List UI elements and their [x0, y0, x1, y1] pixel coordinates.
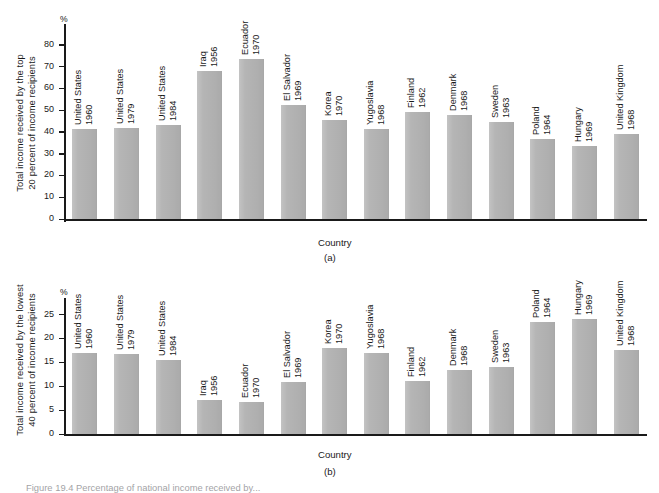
bar — [405, 381, 430, 434]
bar-country-name: United States — [115, 68, 125, 123]
bar — [530, 322, 555, 434]
y-axis-tick-label: 0 — [24, 428, 54, 438]
y-axis-tick — [59, 434, 64, 435]
bar-category-label: Yugoslavia1968 — [365, 304, 388, 348]
bar-country-name: Poland — [531, 290, 541, 319]
bar — [364, 129, 389, 219]
panel-b-x-axis-line — [64, 434, 647, 436]
bar — [114, 128, 139, 219]
bar-year: 1964 — [543, 106, 554, 135]
bar-country-name: Iraq — [198, 51, 208, 67]
bar — [447, 115, 472, 219]
bar — [197, 400, 222, 434]
bar-year: 1968 — [459, 74, 470, 111]
bar-category-label: Sweden1963 — [490, 85, 513, 118]
y-axis-tick — [59, 153, 64, 154]
bar-country-name: Ecuador — [240, 364, 250, 398]
y-axis-tick-label: 0 — [24, 213, 54, 223]
bar-country-name: United States — [115, 295, 125, 350]
bar-year: 1968 — [626, 65, 637, 130]
y-axis-tick — [59, 175, 64, 176]
y-axis-tick-label: 15 — [24, 356, 54, 366]
bar-category-label: Hungary1969 — [573, 281, 596, 316]
bar — [322, 348, 347, 434]
bar-country-name: Yugoslavia — [365, 80, 375, 124]
bar — [614, 350, 639, 434]
bar-category-label: Hungary1969 — [573, 107, 596, 142]
bar — [489, 367, 514, 434]
bar-year: 1984 — [168, 66, 179, 121]
panel-b-y-axis-line — [64, 298, 66, 436]
y-axis-tick-label: 20 — [24, 169, 54, 179]
bar-category-label: El Salvador1969 — [282, 331, 305, 378]
y-axis-tick — [59, 386, 64, 387]
bar — [72, 353, 97, 434]
bar-category-label: Ecuador1970 — [240, 21, 263, 55]
chart-panel-a: Total income received by the top 20 perc… — [0, 4, 659, 256]
bar-country-name: Yugoslavia — [365, 304, 375, 348]
bar-country-name: Korea — [323, 319, 333, 344]
bar — [322, 120, 347, 219]
y-axis-tick-label: 60 — [24, 82, 54, 92]
bar — [614, 134, 639, 219]
bar-country-name: United States — [73, 70, 83, 125]
bar-category-label: United Kingdom1968 — [615, 281, 638, 346]
y-axis-tick-label: 30 — [24, 148, 54, 158]
bar-year: 1968 — [376, 304, 387, 348]
bar-country-name: El Salvador — [282, 54, 292, 101]
bar-year: 1970 — [334, 319, 345, 344]
y-axis-tick — [59, 88, 64, 89]
y-axis-tick — [59, 314, 64, 315]
bar-category-label: El Salvador1969 — [282, 54, 305, 101]
panel-b-unit-mark: % — [60, 287, 68, 297]
bar-category-label: Denmark1968 — [448, 74, 471, 111]
bar — [72, 129, 97, 219]
bar-country-name: Ecuador — [240, 21, 250, 55]
y-axis-tick-label: 10 — [24, 191, 54, 201]
bar-year: 1956 — [210, 47, 221, 67]
y-axis-tick-label: 10 — [24, 380, 54, 390]
bar-year: 1968 — [459, 329, 470, 366]
y-axis-tick — [59, 197, 64, 198]
bar-country-name: Korea — [323, 92, 333, 117]
bar — [364, 353, 389, 434]
bar-country-name: Hungary — [573, 281, 583, 316]
bar-year: 1969 — [293, 54, 304, 101]
bar-year: 1963 — [501, 85, 512, 118]
bar-year: 1969 — [584, 107, 595, 142]
bar-year: 1964 — [543, 290, 554, 319]
bar — [281, 105, 306, 219]
y-axis-tick — [59, 110, 64, 111]
panel-a-x-axis-line — [64, 219, 647, 221]
bar — [447, 370, 472, 434]
bar-category-label: Iraq1956 — [198, 47, 221, 67]
bar-country-name: United Kingdom — [615, 65, 625, 130]
bar — [572, 146, 597, 219]
y-axis-tick-label: 20 — [24, 332, 54, 342]
bar-category-label: United States1960 — [73, 70, 96, 125]
y-axis-tick — [59, 338, 64, 339]
bar-year: 1960 — [85, 294, 96, 349]
bar-year: 1979 — [126, 295, 137, 350]
bar-category-label: Denmark1968 — [448, 329, 471, 366]
bar-country-name: United States — [73, 294, 83, 349]
bar-country-name: Sweden — [490, 330, 500, 363]
bar-country-name: Finland — [406, 347, 416, 377]
bar-category-label: Finland1962 — [406, 78, 429, 108]
bar — [156, 360, 181, 434]
bar-year: 1968 — [626, 281, 637, 346]
bar-category-label: Finland1962 — [406, 347, 429, 377]
bar-country-name: Denmark — [448, 329, 458, 366]
bar-year: 1963 — [501, 330, 512, 363]
bar — [572, 319, 597, 434]
bar-country-name: United States — [157, 301, 167, 356]
y-axis-tick — [59, 219, 64, 220]
bar-year: 1970 — [251, 21, 262, 55]
bar-country-name: Hungary — [573, 107, 583, 142]
y-axis-tick-label: 5 — [24, 404, 54, 414]
panel-a-x-axis-title: Country — [318, 237, 352, 248]
bar — [530, 139, 555, 219]
bar-category-label: United States1984 — [157, 66, 180, 121]
bar-year: 1984 — [168, 301, 179, 356]
